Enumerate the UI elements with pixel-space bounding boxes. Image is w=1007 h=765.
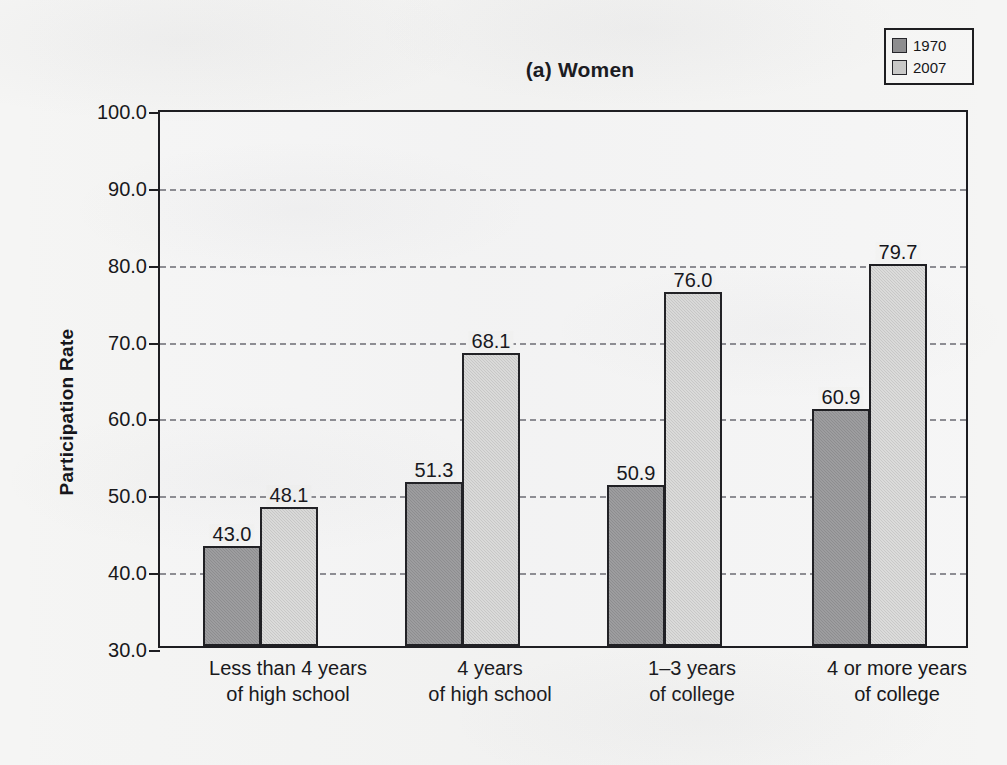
legend-swatch-1970 (892, 38, 907, 53)
bar-2007-group-2: 68.1 (462, 353, 520, 646)
bar-1970-group-3: 50.9 (607, 485, 665, 646)
x-tick-label-line: of college (827, 682, 967, 708)
bar-value-label: 48.1 (267, 485, 312, 506)
y-tick-label: 40.0 (108, 562, 147, 585)
bar-value-label: 79.7 (876, 242, 921, 263)
legend-item-1970: 1970 (892, 34, 967, 56)
y-tick-mark (149, 573, 160, 575)
y-tick-mark (149, 189, 160, 191)
y-tick-label: 90.0 (108, 177, 147, 200)
bar-2007-group-1: 48.1 (260, 507, 318, 646)
chart-legend: 1970 2007 (884, 28, 974, 85)
bar-1970-group-4: 60.9 (812, 409, 870, 646)
x-tick-label-line: of high school (428, 682, 551, 708)
bar-value-label: 51.3 (412, 460, 457, 481)
x-tick-label-group-4: 4 or more yearsof college (827, 656, 967, 707)
bar-1970-group-2: 51.3 (405, 482, 463, 646)
y-tick-mark (149, 650, 160, 652)
bar-1970-group-1: 43.0 (203, 546, 261, 646)
bar-value-label: 76.0 (671, 270, 716, 291)
y-tick-mark (149, 266, 160, 268)
y-axis-title: Participation Rate (56, 292, 78, 532)
x-tick-label-line: Less than 4 years (209, 656, 367, 682)
legend-label-1970: 1970 (913, 38, 946, 53)
x-tick-label-line: of high school (209, 682, 367, 708)
y-tick-label: 80.0 (108, 254, 147, 277)
x-tick-label-line: of college (648, 682, 736, 708)
y-tick-mark (149, 112, 160, 114)
x-tick-label-line: 4 years (428, 656, 551, 682)
bar-value-label: 50.9 (614, 463, 659, 484)
x-tick-label-line: 4 or more years (827, 656, 967, 682)
bar-chart-figure: (a) Women 1970 2007 Participation Rate 1… (0, 0, 1007, 765)
gridline (160, 343, 966, 345)
y-tick-label: 30.0 (108, 639, 147, 662)
x-tick-label-group-1: Less than 4 yearsof high school (209, 656, 367, 707)
bar-2007-group-4: 79.7 (869, 264, 927, 646)
bar-value-label: 43.0 (210, 524, 255, 545)
chart-title: (a) Women (420, 58, 740, 82)
bar-2007-group-3: 76.0 (664, 292, 722, 646)
y-tick-mark (149, 343, 160, 345)
gridline (160, 266, 966, 268)
x-tick-label-line: 1–3 years (648, 656, 736, 682)
y-tick-mark (149, 419, 160, 421)
x-tick-label-group-3: 1–3 yearsof college (648, 656, 736, 707)
legend-item-2007: 2007 (892, 56, 967, 78)
x-tick-label-group-2: 4 yearsof high school (428, 656, 551, 707)
legend-label-2007: 2007 (913, 60, 946, 75)
bar-value-label: 68.1 (469, 331, 514, 352)
y-tick-label: 70.0 (108, 331, 147, 354)
y-tick-label: 50.0 (108, 485, 147, 508)
y-tick-label: 100.0 (97, 101, 147, 124)
plot-area: Participation Rate 100.090.080.070.060.0… (158, 110, 968, 648)
gridline (160, 189, 966, 191)
legend-swatch-2007 (892, 60, 907, 75)
y-tick-label: 60.0 (108, 408, 147, 431)
bar-value-label: 60.9 (819, 387, 864, 408)
y-tick-mark (149, 496, 160, 498)
